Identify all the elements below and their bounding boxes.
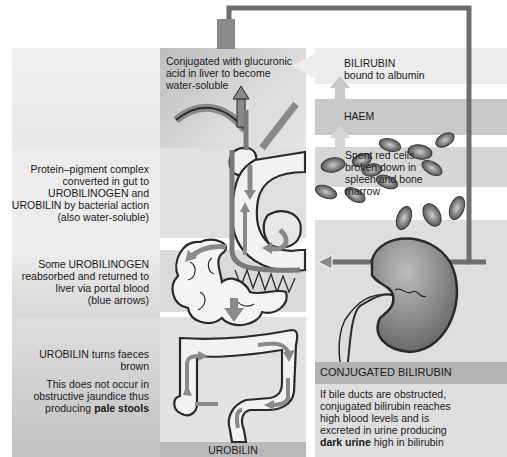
duodenum <box>230 148 305 271</box>
bilirubin-label: BILIRUBIN bound to albumin <box>344 57 425 81</box>
faeces-label: UROBILIN turns faeces brown <box>10 348 149 372</box>
haem-label: HAEM <box>344 110 374 122</box>
conjugated-bilirubin-header: CONJUGATED BILIRUBIN <box>320 366 452 379</box>
liver-ducts <box>176 104 296 148</box>
urobilin-label: UROBILIN <box>160 444 306 456</box>
pale-stools-label: This does not occur in obstructive jaund… <box>10 378 149 414</box>
bile-duct-top <box>217 19 235 49</box>
dark-urine-label: If bile ducts are obstructed, conjugated… <box>320 388 451 448</box>
liver-label: Conjugated with glucuronic acid in liver… <box>166 55 306 91</box>
arrow-into-kidney-icon <box>318 255 332 269</box>
gut-conversion-label: Protein–pigment complex converted in gut… <box>10 163 149 223</box>
dark-urine-emphasis: dark urine <box>320 436 371 448</box>
rbc-to-haem-arrow-icon <box>330 125 350 148</box>
kidney <box>339 239 457 363</box>
portal-reabsorption-label: Some UROBILINOGEN reabsorbed and returne… <box>10 258 149 306</box>
rbc-label: Spent red cells broken down in spleen an… <box>345 149 423 197</box>
pale-stools-emphasis: pale stools <box>94 402 149 414</box>
